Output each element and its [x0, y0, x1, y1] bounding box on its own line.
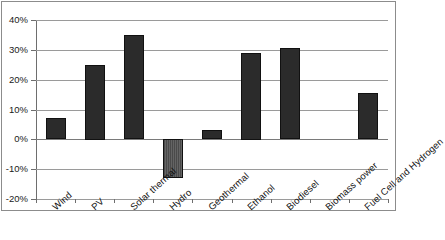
bar	[358, 93, 378, 139]
x-tick-mark	[349, 199, 350, 203]
bar	[124, 35, 144, 139]
y-tick-mark	[31, 110, 36, 111]
y-tick-mark	[31, 80, 36, 81]
gridline	[36, 169, 388, 170]
y-axis-tick-label: -10%	[0, 164, 28, 173]
x-tick-mark	[310, 199, 311, 203]
bar	[241, 53, 261, 140]
y-axis-tick-label: 0%	[0, 134, 28, 143]
y-tick-mark	[31, 50, 36, 51]
y-tick-mark	[31, 139, 36, 140]
bar	[85, 65, 105, 140]
x-tick-mark	[153, 199, 154, 203]
bar	[46, 118, 66, 139]
y-tick-mark	[31, 169, 36, 170]
gridline	[36, 20, 388, 21]
bar	[202, 130, 222, 139]
y-axis-tick-label: 10%	[0, 105, 28, 114]
bar	[280, 48, 300, 139]
x-tick-mark	[114, 199, 115, 203]
x-tick-mark	[232, 199, 233, 203]
y-tick-mark	[31, 20, 36, 21]
x-tick-mark	[271, 199, 272, 203]
y-axis-tick-label: 40%	[0, 15, 28, 24]
y-axis-tick-label: 20%	[0, 75, 28, 84]
x-tick-mark	[388, 199, 389, 203]
y-axis-tick-label: 30%	[0, 45, 28, 54]
x-tick-mark	[192, 199, 193, 203]
x-tick-mark	[75, 199, 76, 203]
gridline	[36, 50, 388, 51]
x-tick-mark	[36, 199, 37, 203]
y-axis-tick-label: -20%	[0, 194, 28, 203]
